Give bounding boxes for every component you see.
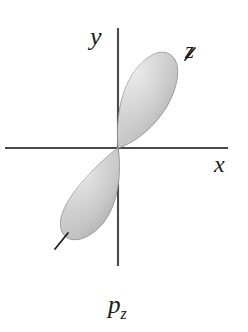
upper-lobe	[108, 44, 188, 154]
y-axis-label: y	[90, 24, 102, 50]
z-tick-lower-icon	[55, 233, 68, 249]
axes-group	[5, 28, 228, 266]
orbital-diagram	[0, 0, 248, 332]
caption-orbital-letter: p	[108, 291, 121, 318]
x-axis-label: x	[214, 152, 225, 176]
figure-caption: pz	[108, 292, 127, 322]
caption-orbital-subscript: z	[121, 305, 127, 322]
z-axis-label: z	[185, 39, 194, 62]
